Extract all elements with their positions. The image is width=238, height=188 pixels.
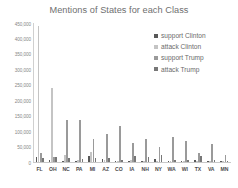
legend-item[interactable]: support Clinton: [154, 30, 236, 41]
x-axis-tick-label: OH: [46, 166, 59, 172]
bar-group: [139, 23, 152, 162]
y-axis-tick-label: 50,000: [17, 145, 31, 150]
legend-label: attack Trump: [161, 66, 199, 73]
y-axis-tick-label: 350,000: [15, 52, 31, 57]
bar-group: [99, 23, 112, 162]
x-axis-tick-label: FL: [33, 166, 46, 172]
bar: [185, 141, 187, 162]
bar: [134, 156, 136, 162]
y-axis-tick-label: 300,000: [15, 67, 31, 72]
x-axis-tick-label: TX: [191, 166, 204, 172]
y-axis-tick-label: 400,000: [15, 36, 31, 41]
bar: [174, 160, 176, 162]
x-axis-tick-label: AZ: [99, 166, 112, 172]
y-axis-tick-labels: 050,000100,000150,000200,000250,000300,0…: [0, 23, 31, 163]
y-axis-tick-label: 450,000: [15, 21, 31, 26]
bar: [95, 158, 97, 162]
bar: [161, 155, 163, 162]
bar-group: [125, 23, 138, 162]
bar: [227, 161, 229, 162]
legend-label: attack Clinton: [161, 43, 201, 50]
x-axis-tick-label: CO: [112, 166, 125, 172]
legend-item[interactable]: attack Clinton: [154, 41, 236, 52]
x-axis-tick-label: WI: [178, 166, 191, 172]
bar-group: [59, 23, 72, 162]
bar: [79, 120, 81, 162]
x-axis-tick-label: PA: [73, 166, 86, 172]
bar: [66, 120, 68, 162]
bar: [42, 158, 44, 162]
legend-swatch-icon: [154, 34, 158, 38]
bar: [108, 158, 110, 162]
x-axis-tick-label: MN: [218, 166, 231, 172]
x-axis-tick-label: IA: [125, 166, 138, 172]
x-axis-tick-label: MI: [86, 166, 99, 172]
bar: [38, 26, 40, 162]
y-axis-tick-label: 150,000: [15, 114, 31, 119]
bar: [200, 156, 202, 162]
bar-group: [112, 23, 125, 162]
bar-group: [86, 23, 99, 162]
bar-group: [73, 23, 86, 162]
bar: [172, 137, 174, 162]
bar-group: [46, 23, 59, 162]
x-axis-tick-label: VA: [205, 166, 218, 172]
bar: [187, 160, 189, 162]
y-axis-tick-label: 0: [28, 160, 31, 165]
x-axis-tick-label: NC: [59, 166, 72, 172]
legend-item[interactable]: support Trump: [154, 52, 236, 63]
y-axis-tick-label: 250,000: [15, 83, 31, 88]
y-axis-tick-label: 200,000: [15, 98, 31, 103]
legend-swatch-icon: [154, 67, 158, 71]
bar: [119, 126, 121, 162]
legend-swatch-icon: [154, 56, 158, 60]
chart-container: Mentions of States for each Class 050,00…: [0, 0, 238, 188]
x-axis-tick-label: NY: [152, 166, 165, 172]
chart-title: Mentions of States for each Class: [0, 5, 238, 15]
x-axis-tick-label: NH: [139, 166, 152, 172]
bar: [55, 157, 57, 162]
bar-group: [33, 23, 46, 162]
legend-swatch-icon: [154, 45, 158, 49]
legend-label: support Trump: [161, 54, 204, 61]
chart-legend: support Clintonattack Clintonsupport Tru…: [154, 30, 236, 75]
y-axis-tick-label: 100,000: [15, 129, 31, 134]
bar: [68, 158, 70, 162]
legend-label: support Clinton: [161, 32, 206, 39]
bar: [214, 160, 216, 162]
x-axis-line: [33, 162, 231, 163]
bar: [51, 88, 53, 162]
x-axis-tick-labels: FLOHNCPAMIAZCOIANHNYWAWITXVAMN: [33, 166, 231, 178]
bar: [148, 157, 150, 162]
bar: [82, 159, 84, 162]
x-axis-tick-label: WA: [165, 166, 178, 172]
legend-item[interactable]: attack Trump: [154, 64, 236, 75]
bar: [121, 160, 123, 162]
